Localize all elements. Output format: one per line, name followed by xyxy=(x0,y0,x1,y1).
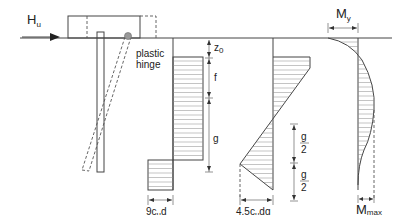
load-label: Hu xyxy=(27,12,41,29)
plastic-hinge-icon xyxy=(125,33,132,40)
my-label: My xyxy=(336,6,351,23)
pile-cap-displaced xyxy=(140,16,156,38)
mmax-label: Mmax xyxy=(356,202,382,215)
svg-text:2: 2 xyxy=(301,144,307,155)
g-half-lower-label: g 2 xyxy=(300,169,309,193)
soil-width-dimension xyxy=(148,195,173,205)
load-arrow xyxy=(22,33,60,41)
shear-width-dimension xyxy=(240,195,273,205)
g-label: g xyxy=(213,133,219,144)
depth-dimensions xyxy=(205,40,213,172)
g-half-upper-label: g 2 xyxy=(300,131,309,155)
svg-text:g: g xyxy=(301,131,307,142)
shear-width-label: 4.5cudg xyxy=(236,206,270,215)
svg-text:g: g xyxy=(301,169,307,180)
f-label: f xyxy=(214,72,217,83)
pile-diagram: Hu plastic hinge 9cud xyxy=(0,0,410,215)
soil-width-label: 9cud xyxy=(146,206,167,215)
my-dimension xyxy=(328,23,358,33)
pile xyxy=(97,32,104,172)
z0-label: z0 xyxy=(214,42,224,55)
plastic-hinge-label: plastic xyxy=(136,48,164,59)
g-half-dimensions xyxy=(290,124,298,201)
shear-diagram xyxy=(240,38,310,198)
svg-text:2: 2 xyxy=(301,182,307,193)
moment-diagram xyxy=(328,38,374,198)
plastic-hinge-label-2: hinge xyxy=(136,59,161,70)
displaced-pile xyxy=(82,37,131,171)
